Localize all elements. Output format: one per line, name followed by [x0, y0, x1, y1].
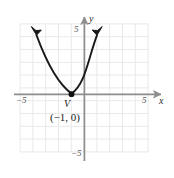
x-axis	[14, 91, 161, 98]
parabola-graph-figure: −5 5 5 −5 y x V (−1, 0)	[0, 0, 174, 178]
vertex-point-marker	[69, 91, 75, 97]
vertex-coordinates-label: (−1, 0)	[50, 112, 80, 123]
y-axis-tick-label-negative-five: −5	[71, 149, 82, 158]
x-axis-tick-label-negative-five: −5	[16, 96, 27, 105]
y-axis-name-label: y	[89, 14, 93, 24]
coordinate-plane	[0, 0, 174, 178]
y-axis-tick-label-positive-five: 5	[74, 25, 79, 34]
x-axis-tick-label-positive-five: 5	[142, 96, 147, 105]
x-axis-name-label: x	[159, 96, 163, 106]
vertex-letter-label: V	[64, 99, 70, 109]
